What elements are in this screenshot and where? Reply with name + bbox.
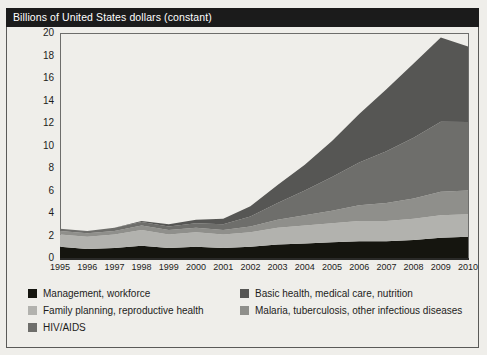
legend-swatch-icon — [240, 289, 249, 298]
frame-left-border — [6, 8, 7, 348]
y-tick-label: 20 — [8, 27, 54, 38]
stacked-area-series — [60, 33, 468, 258]
chart-title: Billions of United States dollars (const… — [6, 8, 479, 27]
legend-swatch-icon — [28, 306, 37, 315]
x-tick-label: 2010 — [451, 262, 485, 272]
legend-item: HIV/AIDS — [28, 322, 86, 334]
x-axis-line — [60, 258, 469, 260]
y-tick-label: 4 — [8, 207, 54, 218]
y-tick-label: 12 — [8, 117, 54, 128]
plot-area — [60, 33, 468, 258]
y-tick-label: 2 — [8, 230, 54, 241]
legend-item: Basic health, medical care, nutrition — [240, 288, 413, 300]
y-tick-label: 16 — [8, 72, 54, 83]
legend-label: Family planning, reproductive health — [43, 305, 204, 316]
y-tick-label: 14 — [8, 95, 54, 106]
legend-swatch-icon — [28, 323, 37, 332]
legend-item: Family planning, reproductive health — [28, 305, 204, 317]
legend-item: Malaria, tuberculosis, other infectious … — [240, 305, 462, 317]
legend-swatch-icon — [28, 289, 37, 298]
y-tick-label: 8 — [8, 162, 54, 173]
legend-label: HIV/AIDS — [43, 322, 86, 333]
legend-label: Basic health, medical care, nutrition — [255, 288, 413, 299]
legend-swatch-icon — [240, 306, 249, 315]
legend-label: Management, workforce — [43, 288, 150, 299]
chart-legend: Management, workforceBasic health, medic… — [28, 288, 468, 344]
plot-right-border — [468, 33, 469, 259]
y-tick-label: 10 — [8, 140, 54, 151]
legend-item: Management, workforce — [28, 288, 150, 300]
frame-right-border — [478, 8, 479, 348]
y-tick-label: 6 — [8, 185, 54, 196]
frame-bottom-border — [6, 347, 479, 348]
chart-figure: Billions of United States dollars (const… — [0, 0, 487, 355]
y-tick-label: 18 — [8, 50, 54, 61]
legend-label: Malaria, tuberculosis, other infectious … — [255, 305, 462, 316]
